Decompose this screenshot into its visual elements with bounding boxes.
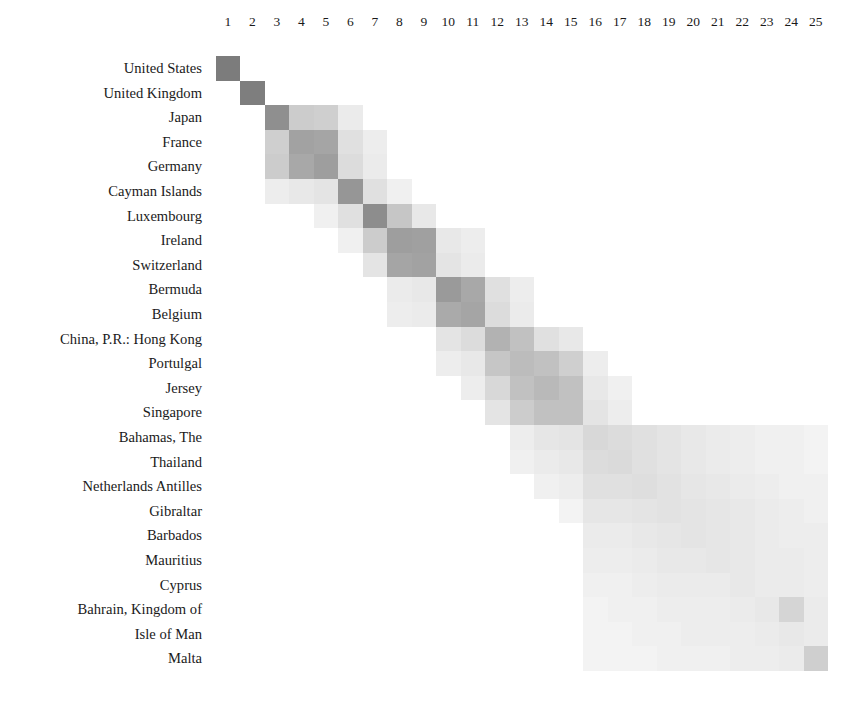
row-label-22: Cyprus [0,573,202,598]
heatmap-cell [387,277,412,302]
heatmap-row [216,425,829,450]
heatmap-cell [583,376,608,401]
heatmap-row [216,253,829,278]
heatmap-cell [730,646,755,671]
heatmap-cell [730,523,755,548]
row-label-6: Cayman Islands [0,179,202,204]
row-label-8: Ireland [0,228,202,253]
heatmap-cell [387,228,412,253]
heatmap-cell [779,499,804,524]
heatmap-row [216,81,829,106]
heatmap-cell [632,573,657,598]
column-header-10: 10 [436,12,461,32]
heatmap-cell [706,425,731,450]
heatmap-row [216,523,829,548]
heatmap-cell [510,302,535,327]
heatmap-cell [485,400,510,425]
row-label-17: Thailand [0,450,202,475]
heatmap-cell [338,105,363,130]
row-label-11: Belgium [0,302,202,327]
heatmap-cell [461,253,486,278]
heatmap-cell [265,105,290,130]
heatmap-cell [681,573,706,598]
row-label-2: United Kingdom [0,81,202,106]
heatmap-figure: 1234567891011121314151617181920212223242… [0,0,848,706]
heatmap-cell [436,351,461,376]
heatmap-cell [657,450,682,475]
row-label-4: France [0,130,202,155]
heatmap-cell [412,302,437,327]
heatmap-cell [779,425,804,450]
heatmap-cell [608,450,633,475]
heatmap-cell [436,277,461,302]
heatmap-cell [632,474,657,499]
heatmap-cell [730,499,755,524]
heatmap-cell [657,548,682,573]
heatmap-row [216,474,829,499]
row-label-14: Jersey [0,376,202,401]
heatmap-cell [730,597,755,622]
heatmap-cell [608,400,633,425]
heatmap-cell [657,499,682,524]
column-header-16: 16 [583,12,608,32]
heatmap-cell [534,327,559,352]
heatmap-cell [804,499,829,524]
heatmap-row [216,351,829,376]
heatmap-cell [681,597,706,622]
heatmap-cell [534,351,559,376]
column-header-17: 17 [608,12,633,32]
heatmap-cell [461,228,486,253]
heatmap-cell [265,130,290,155]
heatmap-row [216,228,829,253]
heatmap-cell [681,474,706,499]
heatmap-cell [608,499,633,524]
heatmap-cell [387,302,412,327]
heatmap-cell [583,351,608,376]
heatmap-row [216,277,829,302]
heatmap-cell [608,646,633,671]
column-header-4: 4 [289,12,314,32]
heatmap-cell [755,646,780,671]
column-header-19: 19 [657,12,682,32]
heatmap-cell [804,523,829,548]
heatmap-cell [730,425,755,450]
heatmap-cell [755,597,780,622]
heatmap-cell [387,179,412,204]
heatmap-row [216,573,829,598]
heatmap-cell [657,573,682,598]
heatmap-cell [681,499,706,524]
heatmap-cell [681,425,706,450]
heatmap-cell [559,474,584,499]
heatmap-cell [289,105,314,130]
heatmap-row [216,622,829,647]
heatmap-cell [632,646,657,671]
row-label-25: Malta [0,646,202,671]
column-header-18: 18 [632,12,657,32]
heatmap-cell [804,474,829,499]
heatmap-cell [559,351,584,376]
column-header-8: 8 [387,12,412,32]
heatmap-cell [632,597,657,622]
heatmap-cell [632,499,657,524]
heatmap-cell [583,597,608,622]
heatmap-cell [583,646,608,671]
heatmap-row [216,302,829,327]
heatmap-cell [363,228,388,253]
heatmap-cell [412,228,437,253]
heatmap-cell [338,228,363,253]
heatmap-cell [559,425,584,450]
heatmap-cell [706,573,731,598]
heatmap-cell [804,597,829,622]
heatmap-cell [534,450,559,475]
heatmap-row [216,548,829,573]
heatmap-row [216,327,829,352]
row-label-9: Switzerland [0,253,202,278]
heatmap-cell [534,376,559,401]
heatmap-cell [779,646,804,671]
heatmap-cell [730,622,755,647]
heatmap-cell [632,622,657,647]
heatmap-cell [510,351,535,376]
heatmap-cell [681,622,706,647]
row-label-16: Bahamas, The [0,425,202,450]
heatmap-cell [534,400,559,425]
